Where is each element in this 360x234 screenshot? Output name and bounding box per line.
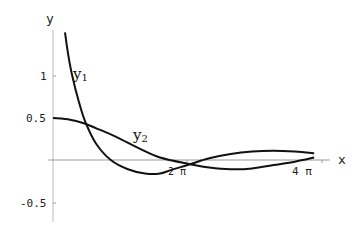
plot-canvas — [0, 0, 360, 234]
y-tick-label-m0.5: -0.5 — [20, 198, 47, 209]
y-axis-label: y — [46, 12, 54, 25]
curve-label-y1-sub: 1 — [81, 72, 87, 83]
curve-label-y1: y1 — [73, 67, 88, 83]
curve-label-y2: y2 — [133, 128, 148, 144]
curve-label-y2-sub: 2 — [141, 133, 147, 144]
curve-y2 — [53, 118, 314, 169]
curve-y1 — [65, 32, 314, 174]
y-tick-label-1: 1 — [40, 71, 47, 82]
y-tick-label-0.5: 0.5 — [26, 113, 46, 124]
x-tick-label-4pi: 4 π — [292, 166, 312, 177]
x-tick-label-2pi: 2 π — [168, 167, 186, 177]
x-axis-label: x — [338, 153, 346, 166]
